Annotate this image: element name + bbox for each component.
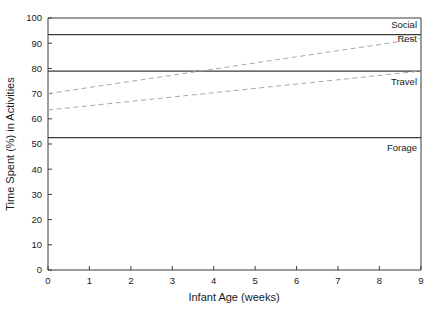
y-tick-label-30: 30 <box>31 189 42 200</box>
plot-background <box>48 18 421 270</box>
x-tick-label-5: 5 <box>252 275 257 286</box>
y-tick-label-60: 60 <box>31 113 42 124</box>
y-tick-label-10: 10 <box>31 239 42 250</box>
band-label-forage: Forage <box>387 142 417 153</box>
y-tick-label-80: 80 <box>31 63 42 74</box>
x-tick-label-3: 3 <box>170 275 175 286</box>
y-tick-label-0: 0 <box>37 264 42 275</box>
x-tick-label-4: 4 <box>211 275 216 286</box>
activity-budget-chart: 0 10 20 30 40 50 60 70 80 90 100 Time Sp… <box>0 0 439 312</box>
y-tick-label-40: 40 <box>31 164 42 175</box>
y-tick-label-70: 70 <box>31 88 42 99</box>
x-tick-label-8: 8 <box>377 275 382 286</box>
chart-figure: 0 10 20 30 40 50 60 70 80 90 100 Time Sp… <box>0 0 439 312</box>
band-label-social: Social <box>391 19 417 30</box>
y-axis-title: Time Spent (%) in Activities <box>4 77 16 211</box>
y-tick-label-90: 90 <box>31 38 42 49</box>
x-tick-label-2: 2 <box>128 275 133 286</box>
x-tick-label-1: 1 <box>87 275 92 286</box>
x-tick-label-7: 7 <box>335 275 340 286</box>
band-label-rest: Rest <box>397 33 417 44</box>
x-tick-label-0: 0 <box>45 275 50 286</box>
x-tick-label-6: 6 <box>294 275 299 286</box>
y-tick-label-50: 50 <box>31 138 42 149</box>
y-tick-label-100: 100 <box>26 12 42 23</box>
band-label-travel: Travel <box>391 76 417 87</box>
x-tick-label-9: 9 <box>418 275 423 286</box>
y-tick-label-20: 20 <box>31 214 42 225</box>
x-axis-title: Infant Age (weeks) <box>188 291 279 303</box>
